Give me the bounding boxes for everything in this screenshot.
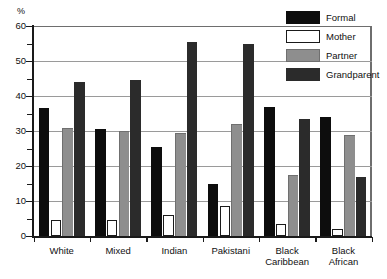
legend-label-partner: Partner — [326, 50, 357, 61]
x-tick — [315, 237, 316, 242]
legend-label-formal: Formal — [326, 12, 356, 23]
y-tick-label: 0 — [4, 231, 26, 241]
bar — [51, 220, 62, 236]
plot-top-border — [34, 26, 372, 27]
bar — [107, 220, 118, 236]
x-axis-category-label: White — [34, 245, 90, 256]
bar — [74, 82, 85, 236]
bar — [264, 107, 275, 237]
y-tick-label: 30 — [4, 126, 26, 136]
x-axis-category-label: Black African — [315, 245, 371, 267]
legend-label-mother: Mother — [326, 31, 356, 42]
x-tick — [146, 237, 147, 242]
bar — [163, 215, 174, 236]
bar — [130, 80, 141, 236]
y-tick-label: 10 — [4, 196, 26, 206]
legend-swatch-grandparent — [286, 68, 320, 81]
bar — [62, 128, 73, 237]
x-axis-category-label: Mixed — [90, 245, 146, 256]
x-tick — [203, 237, 204, 242]
legend-swatch-formal — [286, 11, 320, 24]
y-axis-unit-label: % — [17, 6, 25, 16]
bar — [151, 147, 162, 236]
legend-swatch-partner — [286, 49, 320, 62]
bar — [288, 175, 299, 236]
bar — [208, 184, 219, 237]
gridline — [34, 61, 372, 62]
bar — [175, 133, 186, 236]
legend-swatch-mother — [286, 30, 320, 43]
bar — [356, 177, 367, 237]
y-tick-label: 20 — [4, 161, 26, 171]
x-tick — [90, 237, 91, 242]
bar — [332, 229, 343, 236]
y-tick-label: 50 — [4, 56, 26, 66]
x-tick — [34, 237, 35, 242]
plot-area — [34, 26, 372, 236]
bar-chart: % 0102030405060 WhiteMixedIndianPakistan… — [0, 0, 387, 279]
bar — [119, 131, 130, 236]
x-axis-category-label: Pakistani — [203, 245, 259, 256]
bar — [344, 135, 355, 237]
bar — [95, 129, 106, 236]
legend-label-grandparent: Grandparent — [326, 69, 379, 80]
y-tick-label: 40 — [4, 91, 26, 101]
bar — [231, 124, 242, 236]
x-tick — [372, 237, 373, 242]
bar — [320, 117, 331, 236]
y-tick-label: 60 — [4, 21, 26, 31]
x-axis-category-label: Indian — [146, 245, 202, 256]
bar — [220, 206, 231, 236]
x-tick — [259, 237, 260, 242]
bar — [39, 108, 50, 236]
x-axis-category-label: Black Caribbean — [259, 245, 315, 267]
bar — [276, 224, 287, 236]
bar — [187, 42, 198, 236]
bar — [243, 44, 254, 237]
bar — [299, 119, 310, 236]
